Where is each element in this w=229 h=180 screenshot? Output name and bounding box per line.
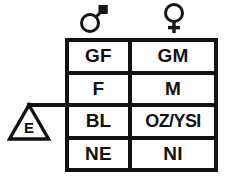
triangle-marker-label: E — [24, 119, 34, 136]
cell-row1-female: M — [132, 75, 214, 104]
table-row: BL OZ/YSI — [69, 107, 214, 140]
male-symbol-icon — [76, 2, 110, 34]
table-row: GF GM — [69, 42, 214, 75]
cell-row1-male: F — [69, 75, 132, 104]
generation-table: GF GM F M BL OZ/YSI NE NI — [65, 38, 218, 172]
pedigree-diagram: E GF GM F M BL OZ/YSI NE NI — [0, 0, 229, 180]
cell-row0-male: GF — [69, 42, 132, 71]
cell-row2-male: BL — [69, 107, 132, 136]
cell-row3-male: NE — [69, 140, 132, 169]
cell-row3-female: NI — [132, 140, 214, 169]
table-row: NE NI — [69, 140, 214, 169]
triangle-marker-icon: E — [7, 101, 51, 143]
female-symbol-icon — [157, 2, 191, 36]
cell-row2-female: OZ/YSI — [132, 107, 214, 136]
table-row: F M — [69, 75, 214, 108]
cell-row0-female: GM — [132, 42, 214, 71]
